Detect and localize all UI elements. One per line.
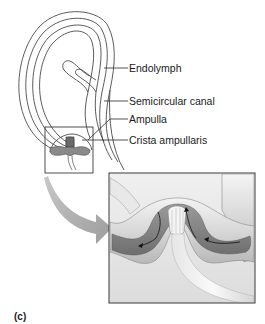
label-ampulla: Ampulla — [129, 113, 167, 125]
diagram-drawing — [0, 0, 265, 324]
semicircular-canal-diagram: Endolymph Semicircular canal Ampulla Cri… — [0, 0, 265, 324]
enlarged-ampulla-inset — [109, 173, 255, 304]
zoom-arrow — [44, 176, 112, 244]
panel-letter: (c) — [14, 311, 26, 322]
label-crista-ampullaris: Crista ampullaris — [129, 134, 207, 146]
label-endolymph: Endolymph — [129, 62, 182, 74]
label-semicircular-canal: Semicircular canal — [129, 95, 215, 107]
